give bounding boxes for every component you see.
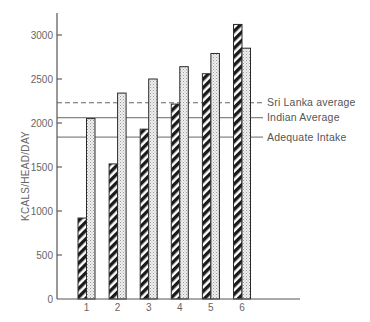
y-tick-label: 2500 [31,74,54,85]
bar-dotted-2 [118,93,127,299]
y-tick-label: 1500 [31,162,54,173]
x-axis-ticks: 123456 [84,302,246,313]
bar-hatched-2 [109,164,118,299]
y-tick-label: 3000 [31,30,54,41]
y-tick-label: 1000 [31,206,54,217]
bar-dotted-5 [211,53,220,299]
bar-hatched-5 [202,74,211,299]
bar-dotted-3 [149,79,158,299]
reference-line-label: Indian Average [267,111,340,123]
x-tick-label: 1 [84,302,90,313]
y-tick-label: 500 [36,250,53,261]
reference-line-labels: Sri Lanka averageIndian AverageAdequate … [267,96,356,142]
bar-dotted-4 [180,67,189,299]
y-tick-label: 0 [47,294,53,305]
reference-line-label: Sri Lanka average [267,96,356,108]
bar-dotted-1 [87,119,96,299]
x-tick-label: 4 [177,302,183,313]
y-axis-title: KCALS/HEAD/DAY [20,131,31,221]
bars [78,24,251,299]
bar-hatched-4 [171,104,180,299]
x-tick-label: 3 [146,302,152,313]
x-tick-label: 6 [239,302,245,313]
y-tick-label: 2000 [31,118,54,129]
bar-dotted-6 [242,48,251,299]
bar-chart: 050010001500200025003000 123456 Sri Lank… [0,0,370,322]
bar-hatched-6 [234,24,243,299]
x-tick-label: 5 [208,302,214,313]
reference-line-label: Adequate Intake [267,131,346,143]
bar-hatched-3 [140,129,149,299]
bar-hatched-1 [78,218,87,299]
x-tick-label: 2 [115,302,121,313]
